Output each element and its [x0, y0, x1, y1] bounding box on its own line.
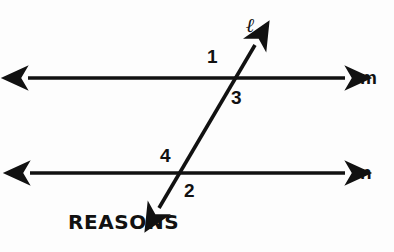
angle-label-2: 2: [184, 181, 195, 200]
line-label-m: m: [360, 68, 377, 87]
line-label-n: n: [360, 163, 372, 182]
geometry-figure: [0, 0, 394, 252]
angle-label-3: 3: [231, 88, 242, 107]
transversal-line-l: [159, 45, 255, 208]
angle-label-4: 4: [160, 146, 171, 165]
diagram-canvas: m n ℓ 1 3 4 2 REASONS: [0, 0, 394, 252]
reasons-caption: REASONS: [68, 212, 179, 232]
angle-label-1: 1: [207, 47, 218, 66]
line-label-script-l: ℓ: [246, 15, 255, 35]
